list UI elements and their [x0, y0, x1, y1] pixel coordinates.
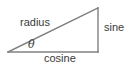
hypotenuse-line — [8, 8, 98, 52]
trigonometry-triangle-diagram: radius sine cosine θ — [0, 0, 135, 66]
opposite-side-label: sine — [104, 22, 124, 33]
hypotenuse-label: radius — [20, 17, 50, 28]
angle-theta-label: θ — [28, 39, 35, 50]
adjacent-side-label: cosine — [44, 53, 76, 64]
